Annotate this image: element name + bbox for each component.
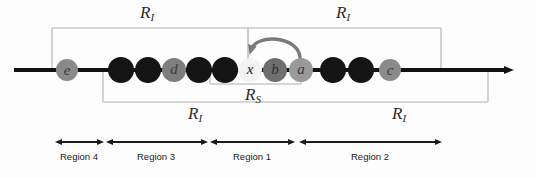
arc-arrow-a-to-x (251, 39, 300, 57)
region-label-3: Region 3 (126, 152, 186, 162)
node-plain-2 (135, 57, 161, 83)
bracket-label-bottom-left: RI (188, 105, 202, 122)
node-label-x: x (242, 62, 258, 77)
region-label-4: Region 4 (49, 152, 109, 162)
bracket-label-top-left: RI (140, 4, 154, 21)
node-label-e: e (59, 63, 75, 78)
node-label-b: b (267, 62, 283, 77)
node-plain-4 (212, 57, 238, 83)
node-label-d: d (166, 62, 182, 77)
node-plain-3 (186, 57, 212, 83)
bracket-label-inner-small: RS (245, 86, 261, 103)
region-label-1: Region 1 (222, 152, 282, 162)
bracket-label-bottom-right: RI (392, 105, 406, 122)
node-plain-1 (108, 57, 134, 83)
node-label-c: c (382, 63, 398, 78)
node-plain-5 (320, 57, 346, 83)
region-diagram: RI RI RS RI RI e d x b a c Region 4 Regi… (0, 0, 536, 178)
region-label-2: Region 2 (340, 152, 400, 162)
node-label-a: a (293, 62, 309, 77)
node-plain-6 (348, 57, 374, 83)
bracket-label-top-right: RI (336, 4, 350, 21)
